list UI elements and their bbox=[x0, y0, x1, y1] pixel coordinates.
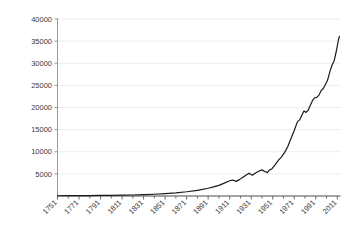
chart-canvas: 500010000150002000025000300003500040000 … bbox=[0, 0, 358, 233]
x-axis bbox=[58, 196, 341, 200]
y-tick-label: 5000 bbox=[35, 170, 52, 179]
x-tick-label: 2011 bbox=[321, 198, 339, 216]
line-chart: 500010000150002000025000300003500040000 … bbox=[0, 0, 358, 233]
y-tick-label: 15000 bbox=[31, 125, 52, 134]
x-tick-label: 1851 bbox=[148, 198, 166, 216]
x-tick-label: 1951 bbox=[256, 198, 274, 216]
x-tick-label: 1971 bbox=[277, 198, 295, 216]
gridlines bbox=[58, 19, 341, 174]
x-tick-label: 1771 bbox=[62, 198, 80, 216]
x-tick-label: 1871 bbox=[170, 198, 188, 216]
y-axis bbox=[55, 18, 58, 196]
x-tick-label: 1991 bbox=[299, 198, 317, 216]
y-tick-label: 25000 bbox=[31, 81, 52, 90]
x-tick-label: 1891 bbox=[191, 198, 209, 216]
x-tick-labels: 1751177117911811183118511871189119111931… bbox=[41, 198, 339, 216]
y-tick-label: 20000 bbox=[31, 103, 52, 112]
x-tick-label: 1911 bbox=[213, 198, 231, 216]
x-tick-label: 1811 bbox=[106, 198, 124, 216]
y-tick-labels: 500010000150002000025000300003500040000 bbox=[31, 15, 52, 179]
x-tick-label: 1791 bbox=[84, 198, 102, 216]
x-tick-label: 1931 bbox=[234, 198, 252, 216]
x-tick-label: 1751 bbox=[41, 198, 59, 216]
data-series-line bbox=[58, 36, 340, 195]
y-tick-label: 30000 bbox=[31, 59, 52, 68]
x-tick-label: 1831 bbox=[127, 198, 145, 216]
y-tick-label: 35000 bbox=[31, 37, 52, 46]
y-tick-label: 10000 bbox=[31, 147, 52, 156]
series-line bbox=[58, 36, 340, 195]
y-tick-label: 40000 bbox=[31, 15, 52, 24]
